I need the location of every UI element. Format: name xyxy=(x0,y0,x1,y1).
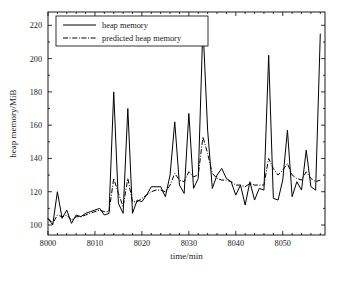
x-tick-label-8020: 8020 xyxy=(134,239,150,248)
y-tick-label-180: 180 xyxy=(30,88,42,97)
chart-figure: 8000801080208030804080501001201401601802… xyxy=(0,0,349,285)
y-tick-label-100: 100 xyxy=(30,221,42,230)
y-tick-label-220: 220 xyxy=(30,21,42,30)
series-line-1 xyxy=(48,137,320,224)
x-tick-label-8030: 8030 xyxy=(181,239,197,248)
x-axis-title: time/min xyxy=(170,251,203,261)
chart-canvas: 8000801080208030804080501001201401601802… xyxy=(0,0,349,285)
x-tick-label-8010: 8010 xyxy=(87,239,103,248)
x-tick-label-8040: 8040 xyxy=(228,239,244,248)
y-axis-title: heap memory/MiB xyxy=(8,89,18,157)
y-tick-label-140: 140 xyxy=(30,154,42,163)
legend-label-1: predicted heap memory xyxy=(102,34,182,43)
series-line-0 xyxy=(48,25,320,225)
x-tick-label-8000: 8000 xyxy=(40,239,56,248)
y-tick-label-200: 200 xyxy=(30,55,42,64)
legend-label-0: heap memory xyxy=(102,21,149,30)
y-tick-label-160: 160 xyxy=(30,121,42,130)
y-tick-label-120: 120 xyxy=(30,188,42,197)
x-tick-label-8050: 8050 xyxy=(275,239,291,248)
